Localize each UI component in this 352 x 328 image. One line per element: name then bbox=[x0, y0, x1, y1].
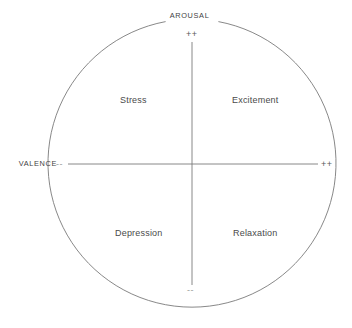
arousal-negative-marker: -- bbox=[187, 286, 194, 295]
valence-positive-marker: ++ bbox=[321, 160, 333, 169]
quadrant-label-lower-right: Relaxation bbox=[233, 229, 278, 238]
circumplex-diagram: AROUSAL ++ -- VALENCE -- ++ Stress Excit… bbox=[0, 0, 352, 328]
arousal-axis-label: AROUSAL bbox=[170, 12, 210, 20]
quadrant-label-upper-left: Stress bbox=[120, 96, 147, 105]
arousal-positive-marker: ++ bbox=[186, 30, 198, 39]
valence-negative-marker: -- bbox=[56, 160, 63, 169]
quadrant-label-lower-left: Depression bbox=[115, 229, 163, 238]
quadrant-label-upper-right: Excitement bbox=[232, 96, 279, 105]
valence-axis-label: VALENCE bbox=[19, 160, 57, 168]
